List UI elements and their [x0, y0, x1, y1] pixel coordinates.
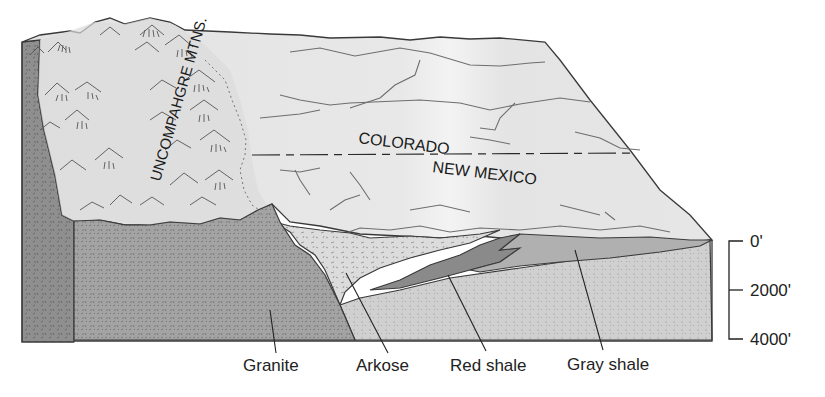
- red-shale-label: Red shale: [450, 356, 527, 375]
- depth-tick-0: 0': [750, 232, 763, 251]
- depth-scale: [729, 241, 743, 339]
- depth-tick-2000: 2000': [750, 281, 791, 300]
- depth-tick-4000: 4000': [750, 330, 791, 349]
- arkose-label: Arkose: [356, 356, 409, 375]
- granite-label: Granite: [243, 356, 299, 375]
- gray-shale-label: Gray shale: [567, 355, 649, 374]
- geologic-block-diagram: UNCOMPAHGRE MTNS. COLORADO NEW MEXICO Gr…: [0, 0, 825, 397]
